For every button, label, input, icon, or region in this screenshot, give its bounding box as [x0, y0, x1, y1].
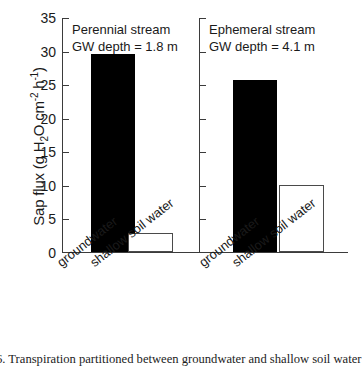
figure-caption: 6. Transpiration partitioned between gro… — [0, 352, 358, 367]
y-tick-label-5: 5 — [28, 211, 56, 227]
tick-35 — [200, 18, 206, 19]
panel-ephemeral-stream: Ephemeral stream GW depth = 4.1 m — [199, 18, 348, 253]
tick-5 — [63, 219, 69, 220]
tick-25 — [63, 85, 69, 86]
y-tick-label-25: 25 — [28, 77, 56, 93]
y-tick-label-35: 35 — [28, 10, 56, 26]
tick-30 — [63, 52, 69, 53]
tick-20 — [200, 119, 206, 120]
y-axis-tick-labels: 35 30 25 20 15 10 5 0 — [22, 0, 56, 374]
tick-15 — [200, 152, 206, 153]
panel-annotation-line1: Ephemeral stream — [209, 21, 315, 38]
panel-perennial-stream: Perennial stream GW depth = 1.8 m — [62, 18, 199, 253]
tick-10 — [63, 186, 69, 187]
y-tick-label-10: 10 — [28, 178, 56, 194]
tick-10 — [200, 186, 206, 187]
panel-annotation-line2: GW depth = 4.1 m — [209, 38, 315, 55]
tick-25 — [200, 85, 206, 86]
panel-annotation-ephemeral: Ephemeral stream GW depth = 4.1 m — [209, 21, 315, 55]
panel-annotation-line1: Perennial stream — [72, 21, 178, 38]
panel-annotation-line2: GW depth = 1.8 m — [72, 38, 178, 55]
y-tick-label-30: 30 — [28, 44, 56, 60]
y-tick-label-20: 20 — [28, 111, 56, 127]
tick-30 — [200, 52, 206, 53]
panel-annotation-perennial: Perennial stream GW depth = 1.8 m — [72, 21, 178, 55]
tick-35 — [63, 18, 69, 19]
tick-20 — [63, 119, 69, 120]
tick-15 — [63, 152, 69, 153]
y-tick-label-15: 15 — [28, 144, 56, 160]
y-tick-label-0: 0 — [28, 245, 56, 261]
tick-5 — [200, 219, 206, 220]
